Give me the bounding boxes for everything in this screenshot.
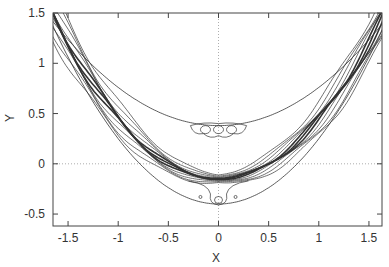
y-tick-label: 0.5 — [28, 107, 45, 121]
y-axis-label: Y — [3, 114, 17, 122]
contour-lines — [48, 0, 389, 205]
x-tick-label: 0.5 — [260, 231, 277, 245]
x-tick-labels: -1.5-1-0.500.511.5 — [58, 231, 378, 245]
x-tick-label: -1 — [113, 231, 124, 245]
y-tick-label: 1.5 — [28, 6, 45, 20]
x-tick-label: 0 — [215, 231, 222, 245]
y-tick-label: -0.5 — [24, 207, 45, 221]
x-tick-label: 1.5 — [361, 231, 378, 245]
x-tick-label: -0.5 — [158, 231, 179, 245]
x-tick-label: 1 — [315, 231, 322, 245]
y-tick-labels: -0.500.511.5 — [24, 6, 45, 221]
x-axis-label: X — [212, 251, 220, 265]
y-tick-label: 1 — [38, 56, 45, 70]
contour-plot: -1.5-1-0.500.511.5 -0.500.511.5 X Y — [0, 0, 389, 267]
y-tick-label: 0 — [38, 157, 45, 171]
x-tick-label: -1.5 — [58, 231, 79, 245]
